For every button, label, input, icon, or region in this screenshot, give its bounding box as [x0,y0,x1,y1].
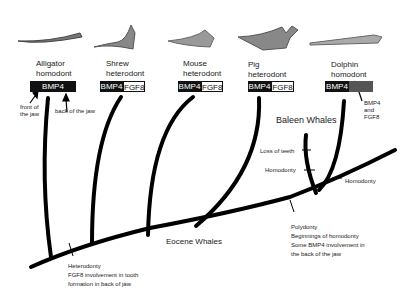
gene-box-pig: BMP4 FGF8 [248,81,294,92]
gene-bmp4: BMP4 [248,81,271,92]
label-back-of-jaw: back of the jaw [55,108,95,115]
taxon-alligator: Alligator homodont [36,59,72,79]
taxon-name: Shrew [106,59,144,69]
label-front-of-jaw: front of the jaw [20,104,42,118]
taxon-name: Mouse [183,59,221,69]
label-homodonty-dolphin: Homodonty [345,178,376,185]
taxon-shrew: Shrew heterodont [106,59,144,79]
gene-bmp4: BMP4 [30,81,76,92]
gene-bmp4: BMP4 [325,81,349,92]
taxon-dentition: homodont [36,69,72,79]
note-line: Polydonty [291,223,365,232]
taxon-dentition: heterodont [106,69,144,79]
taxon-mouse: Mouse heterodont [183,59,221,79]
taxon-dentition: heterodont [248,70,286,80]
note-line: Some BMP4 involvement in [291,241,365,250]
gene-box-shrew: BMP4 FGF8 [100,81,145,92]
note-polydonty: Polydonty Beginnings of homodonty Some B… [291,223,365,259]
gene-bmp4: BMP4 [178,81,201,92]
taxon-pig: Pig heterodont [248,60,286,80]
gene-fgf8: FGF8 [271,81,294,92]
label-homodonty-baleen: Homodonty [265,167,296,174]
gene-box-dolphin: BMP4 [325,81,373,92]
taxon-name: Dolphin [331,60,367,70]
gene-bmp4: BMP4 [100,81,123,92]
note-line: FGF8 involvement in tooth [68,271,138,280]
taxon-dentition: homodont [331,70,367,80]
label-baleen-whales: Baleen Whales [276,115,337,125]
label-loss-of-teeth: Loss of teeth [260,148,294,155]
note-line: the back of the jaw [291,250,365,259]
note-heterodonty: Heterodonty FGF8 involvement in tooth fo… [68,262,138,289]
label-eocene-whales: Eocene Whales [166,237,222,247]
gene-bmp4-fgf8-gray [349,81,373,92]
gene-fgf8: FGF8 [201,81,223,92]
note-line: Heterodonty [68,262,138,271]
jaw-images [18,25,382,50]
taxon-name: Pig [248,60,286,70]
label-bmp4-and-fgf8: BMP4 and FGF8 [364,100,390,121]
taxon-name: Alligator [36,59,72,69]
gene-box-mouse: BMP4 FGF8 [178,81,223,92]
taxon-dolphin: Dolphin homodont [331,60,367,80]
gene-box-alligator: BMP4 [30,81,76,92]
taxon-dentition: heterodont [183,69,221,79]
gene-fgf8: FGF8 [123,81,145,92]
note-line: Beginnings of homodonty [291,232,365,241]
note-line: formation in back of jaw [68,280,138,289]
